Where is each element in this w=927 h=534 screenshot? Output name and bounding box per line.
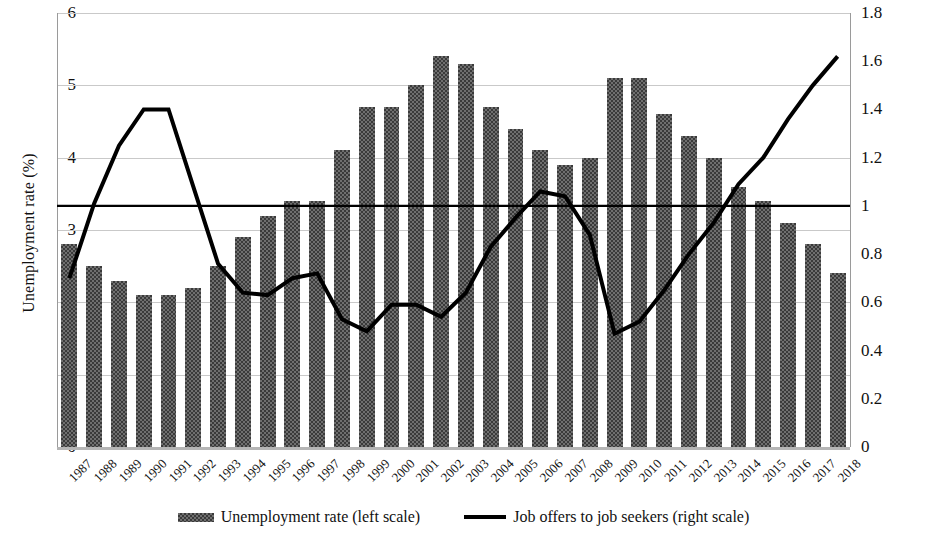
x-axis-baseline — [57, 447, 850, 450]
y-axis-right-tick: 0.4 — [861, 342, 921, 359]
y-axis-right-tick: 1.6 — [861, 52, 921, 69]
y-axis-right-tick: 0.8 — [861, 245, 921, 262]
y-axis-right-tick: 0.2 — [861, 390, 921, 407]
chart-legend: Unemployment rate (left scale) Job offer… — [0, 508, 927, 526]
legend-label-unemployment-rate: Unemployment rate (left scale) — [221, 508, 420, 526]
x-axis-tick-labels: 1987198819891990199119921993199419951996… — [57, 452, 850, 504]
y-axis-right-tick: 1.8 — [861, 4, 921, 21]
y-axis-right-tick: 0 — [861, 438, 921, 455]
y-axis-right-tick: 0.6 — [861, 293, 921, 310]
line-swatch-icon — [464, 515, 506, 519]
legend-item-unemployment-rate: Unemployment rate (left scale) — [178, 508, 420, 526]
y-axis-right-line — [850, 13, 851, 447]
plot-area — [57, 13, 850, 447]
bar-swatch-icon — [178, 513, 214, 522]
y-axis-right-tick: 1.2 — [861, 149, 921, 166]
line-series — [57, 13, 850, 447]
legend-item-job-offers: Job offers to job seekers (right scale) — [464, 508, 749, 526]
legend-label-job-offers: Job offers to job seekers (right scale) — [513, 508, 749, 526]
y-axis-right-tick: 1.4 — [861, 100, 921, 117]
chart-container: Unemployment rate (%) Ratio of job openi… — [0, 0, 927, 534]
y-axis-right-tick: 1 — [861, 197, 921, 214]
job-offers-line — [69, 56, 837, 333]
